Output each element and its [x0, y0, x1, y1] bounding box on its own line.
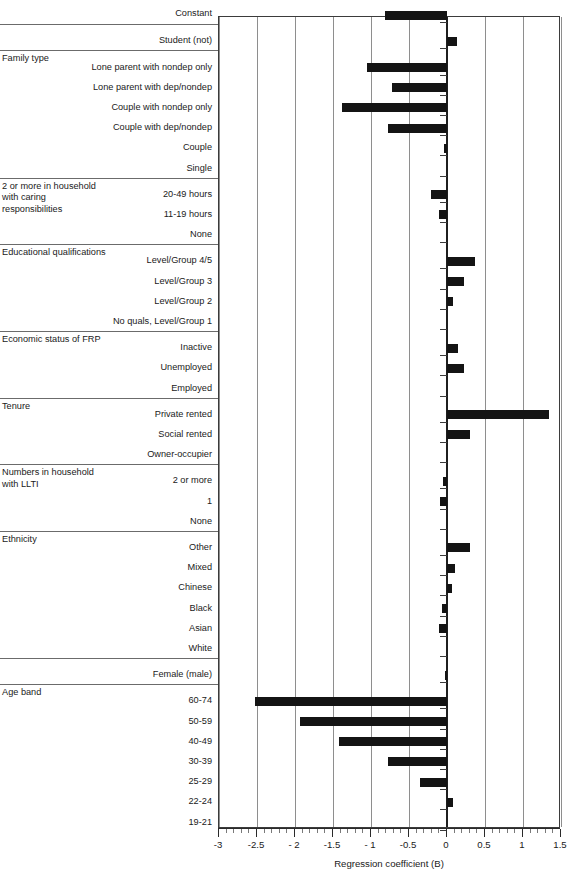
category-label: 25-29 [6, 772, 212, 792]
bar [447, 798, 453, 807]
minor-tick [438, 829, 439, 833]
bar [385, 11, 447, 20]
category-label: 60-74 [6, 691, 212, 711]
row-tick [440, 375, 447, 376]
minor-tick [423, 829, 424, 833]
bar [339, 737, 447, 746]
x-tick-label: 1.5 [553, 839, 566, 850]
row-tick [440, 729, 447, 730]
category-label: Chinese [6, 578, 212, 598]
label-group: Economic status of FRPInactiveUnemployed… [0, 331, 218, 398]
group-category-list: Level/Group 4/5Level/Group 3Level/Group … [6, 251, 212, 332]
category-label: 1 [6, 491, 212, 511]
gridline-neg3 [219, 17, 220, 827]
label-group: Family typeLone parent with nondep onlyL… [0, 50, 218, 177]
row-tick [440, 749, 447, 750]
category-label: Unemployed [6, 358, 212, 378]
category-label: 2 or more [6, 471, 212, 491]
row-tick [440, 789, 447, 790]
minor-tick [271, 829, 272, 833]
minor-tick [279, 829, 280, 833]
row-tick [440, 222, 447, 223]
row-tick [440, 575, 447, 576]
x-tick-label: 0 [443, 839, 448, 850]
minor-tick [378, 829, 379, 833]
group-category-list: Constant [6, 4, 212, 24]
row-tick [440, 48, 447, 49]
row-tick [440, 22, 447, 23]
category-label: Student (not) [6, 31, 212, 51]
x-tick-label: -1.5 [324, 839, 341, 850]
bar [447, 277, 464, 286]
minor-tick [400, 829, 401, 833]
label-group: Constant [0, 0, 218, 24]
category-label: 22-24 [6, 792, 212, 812]
minor-tick [476, 829, 477, 833]
category-label: 20-49 hours [6, 185, 212, 205]
bar [447, 364, 464, 373]
minor-tick [264, 829, 265, 833]
category-label: 19-21 [6, 812, 212, 832]
bar [255, 697, 447, 706]
row-tick [440, 462, 447, 463]
minor-tick [302, 829, 303, 833]
x-tick-label: 0.5 [477, 839, 490, 850]
gridline-1 [523, 17, 524, 827]
minor-tick [492, 829, 493, 833]
category-label: Owner-occupier [6, 445, 212, 465]
bar [447, 297, 453, 306]
major-tick [522, 829, 523, 837]
row-tick [440, 529, 447, 530]
bar [447, 543, 470, 552]
row-tick [440, 769, 447, 770]
bar [447, 564, 455, 573]
category-label: 11-19 hours [6, 205, 212, 225]
category-label: Single [6, 158, 212, 178]
row-tick [440, 509, 447, 510]
minor-tick [499, 829, 500, 833]
bar [342, 103, 447, 112]
minor-tick [317, 829, 318, 833]
category-label: Couple with nondep only [6, 98, 212, 118]
bar [388, 757, 447, 766]
category-label: Couple [6, 138, 212, 158]
row-tick [440, 595, 447, 596]
bar [447, 257, 475, 266]
row-tick [440, 555, 447, 556]
category-label: White [6, 639, 212, 659]
major-tick [294, 829, 295, 837]
minor-tick [226, 829, 227, 833]
minor-tick [530, 829, 531, 833]
major-tick [370, 829, 371, 837]
category-label: Private rented [6, 405, 212, 425]
category-label: Level/Group 3 [6, 271, 212, 291]
minor-tick [514, 829, 515, 833]
minor-tick [248, 829, 249, 833]
row-tick [440, 135, 447, 136]
bar [367, 63, 447, 72]
row-tick [440, 809, 447, 810]
minor-tick [416, 829, 417, 833]
regression-coefficient-chart: ConstantStudent (not)Family typeLone par… [0, 0, 577, 886]
minor-tick [324, 829, 325, 833]
row-tick [440, 488, 447, 489]
bar [447, 584, 452, 593]
minor-tick [286, 829, 287, 833]
category-label: Other [6, 538, 212, 558]
category-label: 50-59 [6, 711, 212, 731]
group-category-list: Lone parent with nondep onlyLone parent … [6, 57, 212, 178]
category-label: 40-49 [6, 732, 212, 752]
row-tick [440, 95, 447, 96]
row-tick [440, 442, 447, 443]
label-group: EthnicityOtherMixedChineseBlackAsianWhit… [0, 531, 218, 658]
bar [444, 144, 447, 153]
row-tick [440, 329, 447, 330]
label-group: Female (male) [0, 658, 218, 684]
row-tick [440, 289, 447, 290]
label-group: TenurePrivate rentedSocial rentedOwner-o… [0, 398, 218, 465]
category-label: Asian [6, 619, 212, 639]
major-tick [218, 829, 219, 837]
bar [447, 344, 458, 353]
bar [431, 190, 447, 199]
group-category-list: Private rentedSocial rentedOwner-occupie… [6, 405, 212, 466]
